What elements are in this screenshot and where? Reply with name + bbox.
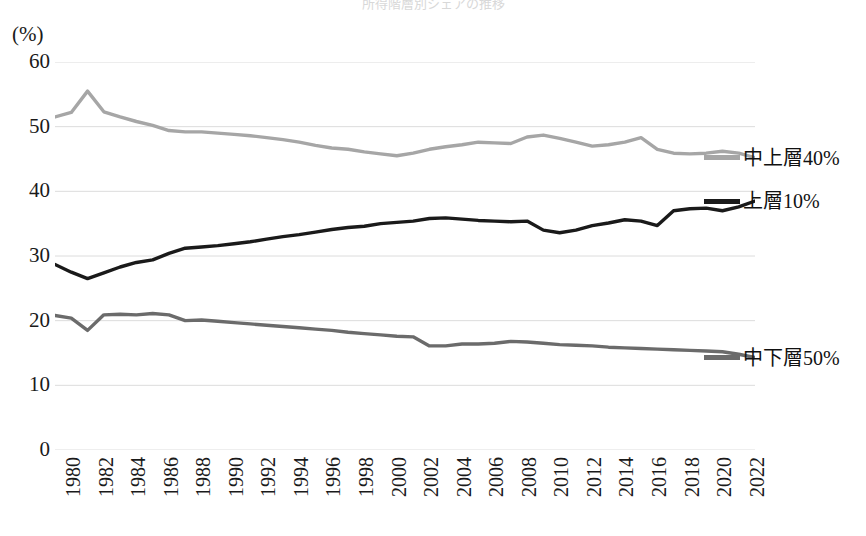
y-axis-tick-40: 40 (4, 180, 50, 201)
x-axis-tick-1988: 1988 (193, 457, 213, 497)
legend-swatch-upper-middle40 (704, 155, 740, 160)
x-axis-tick-2006: 2006 (486, 457, 506, 497)
x-axis-tick-2004: 2004 (454, 457, 474, 497)
x-axis-tick-2018: 2018 (682, 457, 702, 497)
x-axis-tick-1984: 1984 (128, 457, 148, 497)
x-axis-tick-1996: 1996 (323, 457, 343, 497)
y-axis-tick-30: 30 (4, 245, 50, 266)
chart-legend: 上層10%中上層40%中下層50% (700, 0, 866, 536)
legend-item-中下層50%[interactable]: 中下層50% (704, 347, 840, 369)
legend-label-上層10%: 上層10% (743, 190, 820, 212)
x-axis-tick-1986: 1986 (161, 457, 181, 497)
y-axis-tick-60: 60 (4, 51, 50, 72)
x-axis-tick-1982: 1982 (96, 457, 116, 497)
x-axis-tick-1994: 1994 (291, 457, 311, 497)
income-share-line-chart: 所得階層別シェアの推移 (%) 0102030405060 1980198219… (0, 0, 866, 536)
series-line-上層10% (55, 201, 755, 279)
x-axis-tick-2012: 2012 (584, 457, 604, 497)
series-lines (55, 62, 755, 450)
y-axis-tick-10: 10 (4, 374, 50, 395)
x-axis-tick-2002: 2002 (421, 457, 441, 497)
series-line-中上層40% (55, 91, 755, 158)
legend-swatch-lower-middle50 (704, 355, 740, 360)
legend-item-中上層40%[interactable]: 中上層40% (704, 147, 840, 169)
legend-label-中下層50%: 中下層50% (743, 347, 840, 369)
x-axis-tick-2016: 2016 (649, 457, 669, 497)
legend-label-中上層40%: 中上層40% (743, 147, 840, 169)
x-axis-tick-1990: 1990 (226, 457, 246, 497)
x-axis-tick-2008: 2008 (519, 457, 539, 497)
legend-swatch-top10 (704, 199, 740, 204)
legend-item-上層10%[interactable]: 上層10% (704, 190, 820, 212)
x-axis-tick-1980: 1980 (63, 457, 83, 497)
x-axis-tick-1992: 1992 (258, 457, 278, 497)
x-axis-tick-1998: 1998 (356, 457, 376, 497)
x-axis-tick-2000: 2000 (389, 457, 409, 497)
y-axis-tick-20: 20 (4, 310, 50, 331)
plot-area (55, 62, 755, 450)
x-axis-tick-2010: 2010 (551, 457, 571, 497)
x-axis-tick-2014: 2014 (616, 457, 636, 497)
y-axis-tick-50: 50 (4, 116, 50, 137)
series-line-中下層50% (55, 314, 755, 358)
